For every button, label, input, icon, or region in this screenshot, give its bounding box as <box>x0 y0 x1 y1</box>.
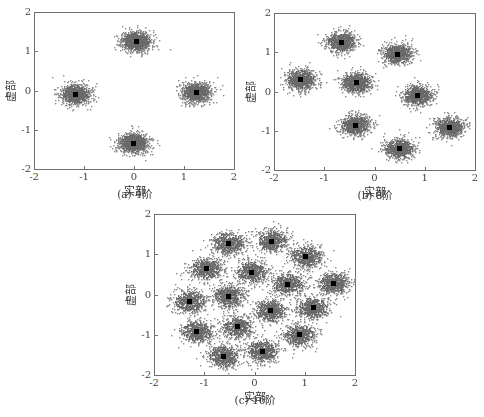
x-tick-mark <box>234 166 235 169</box>
y-tick-mark <box>155 335 158 336</box>
y-tick-label: 1 <box>137 249 151 259</box>
y-tick-label: 2 <box>17 7 31 17</box>
scatter-canvas <box>275 14 477 172</box>
y-tick-mark <box>155 254 158 255</box>
y-tick-mark <box>155 375 158 376</box>
figure-caption: (a) 4阶 <box>117 186 151 201</box>
y-axis-label: 虚部 <box>242 81 258 103</box>
y-tick-mark <box>35 130 38 131</box>
plot-area <box>274 13 476 171</box>
y-tick-label: 1 <box>257 47 271 57</box>
y-tick-label: -2 <box>137 370 151 380</box>
y-tick-mark <box>155 214 158 215</box>
y-tick-mark <box>275 170 278 171</box>
x-tick-label: 2 <box>352 378 358 388</box>
y-tick-mark <box>275 13 278 14</box>
y-tick-mark <box>35 51 38 52</box>
x-tick-label: 1 <box>181 172 187 182</box>
x-tick-mark <box>324 167 325 170</box>
plot-area <box>154 214 356 376</box>
y-tick-mark <box>35 12 38 13</box>
y-tick-mark <box>35 169 38 170</box>
y-tick-label: -2 <box>257 165 271 175</box>
x-tick-label: 2 <box>472 173 478 183</box>
y-tick-mark <box>155 295 158 296</box>
y-tick-label: 0 <box>17 86 31 96</box>
x-tick-label: -1 <box>319 173 329 183</box>
x-tick-label: 1 <box>302 378 308 388</box>
scatter-canvas <box>35 13 236 171</box>
x-tick-mark <box>184 166 185 169</box>
x-tick-mark <box>255 372 256 375</box>
x-tick-mark <box>425 167 426 170</box>
x-tick-label: -1 <box>199 378 209 388</box>
x-tick-label: 0 <box>371 173 377 183</box>
y-axis-label: 虚部 <box>122 284 138 306</box>
y-tick-label: -2 <box>17 164 31 174</box>
x-tick-mark <box>204 372 205 375</box>
y-tick-label: 1 <box>17 46 31 56</box>
y-tick-label: 0 <box>257 87 271 97</box>
y-tick-label: 0 <box>137 290 151 300</box>
y-tick-label: 2 <box>137 209 151 219</box>
x-tick-mark <box>475 167 476 170</box>
x-tick-mark <box>134 166 135 169</box>
x-tick-label: -1 <box>79 172 89 182</box>
x-tick-label: 0 <box>131 172 137 182</box>
x-tick-mark <box>305 372 306 375</box>
y-tick-mark <box>275 92 278 93</box>
figure-caption: (c) 16阶 <box>235 392 276 407</box>
plot-area <box>34 12 235 170</box>
x-tick-label: 0 <box>251 378 257 388</box>
x-tick-label: 2 <box>231 172 237 182</box>
y-tick-mark <box>35 91 38 92</box>
y-tick-label: -1 <box>137 330 151 340</box>
x-tick-mark <box>84 166 85 169</box>
scatter-canvas <box>155 215 357 377</box>
x-tick-mark <box>375 167 376 170</box>
y-tick-label: 2 <box>257 8 271 18</box>
y-tick-label: -1 <box>257 126 271 136</box>
y-tick-label: -1 <box>17 125 31 135</box>
y-axis-label: 虚部 <box>2 80 18 102</box>
y-tick-mark <box>275 131 278 132</box>
x-tick-mark <box>355 372 356 375</box>
figure-caption: (b) 8阶 <box>358 187 393 202</box>
x-tick-label: 1 <box>422 173 428 183</box>
y-tick-mark <box>275 52 278 53</box>
